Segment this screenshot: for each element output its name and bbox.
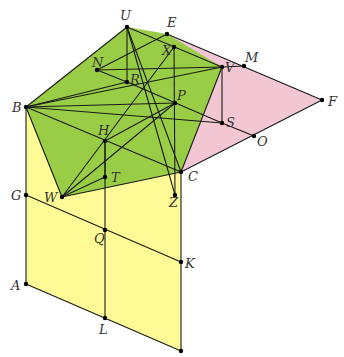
point-D: [179, 349, 183, 353]
point-S: [220, 121, 224, 125]
label-F: F: [327, 94, 338, 109]
label-K: K: [184, 256, 196, 271]
label-T: T: [111, 170, 121, 185]
label-G: G: [11, 188, 21, 203]
geometry-diagram: UEXVMFNRPSOBHTCZWGQKAL: [0, 0, 344, 357]
point-V: [220, 65, 224, 69]
point-C: [179, 170, 183, 174]
point-W: [60, 195, 64, 199]
label-M: M: [244, 50, 259, 65]
label-X: X: [161, 43, 172, 58]
point-X: [172, 45, 176, 49]
point-F: [320, 98, 324, 102]
label-H: H: [97, 123, 110, 138]
label-Q: Q: [94, 231, 105, 246]
label-S: S: [226, 115, 235, 130]
label-L: L: [98, 322, 108, 337]
point-O: [252, 134, 256, 138]
point-H: [103, 139, 107, 143]
point-T: [103, 175, 107, 179]
label-B: B: [11, 100, 22, 115]
diagram-canvas: UEXVMFNRPSOBHTCZWGQKAL: [0, 0, 344, 357]
point-G: [24, 193, 28, 197]
point-B: [24, 105, 28, 109]
label-C: C: [188, 169, 198, 184]
point-A: [24, 282, 28, 286]
label-P: P: [176, 88, 186, 103]
point-E: [165, 32, 169, 36]
label-E: E: [166, 15, 177, 30]
point-U: [125, 25, 129, 29]
label-R: R: [129, 72, 140, 87]
label-V: V: [225, 60, 236, 75]
point-R: [125, 80, 129, 84]
point-K: [179, 260, 183, 264]
point-L: [103, 316, 107, 320]
label-W: W: [44, 190, 59, 205]
label-Z: Z: [168, 195, 179, 210]
label-O: O: [257, 134, 268, 149]
label-A: A: [10, 278, 20, 293]
label-U: U: [120, 8, 132, 23]
label-N: N: [91, 55, 104, 70]
